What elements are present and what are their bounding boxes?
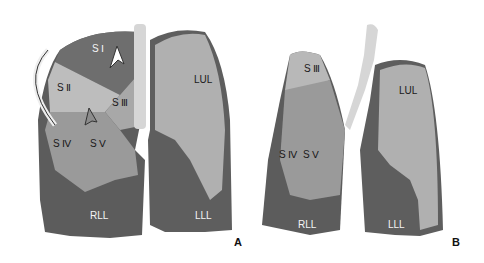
lung-rendering [0, 0, 484, 263]
label-lll-b: LLL [388, 220, 405, 230]
label-s3-a: S Ⅲ [112, 98, 128, 108]
lung-figure: S Ⅰ S Ⅱ S Ⅲ S Ⅳ S Ⅴ LUL RLL LLL A S Ⅲ S … [0, 0, 484, 263]
label-lul-b: LUL [399, 86, 417, 96]
label-s5-b: S Ⅴ [303, 150, 319, 160]
panel-label-b: B [452, 236, 460, 248]
label-rll-b: RLL [298, 220, 316, 230]
label-rll-a: RLL [90, 211, 108, 221]
label-s1-a: S Ⅰ [92, 44, 104, 54]
panel-label-a: A [234, 236, 242, 248]
label-s4-b: S Ⅳ [279, 150, 297, 160]
label-s3-b: S Ⅲ [304, 64, 320, 74]
label-s2-a: S Ⅱ [57, 83, 71, 93]
label-lll-a: LLL [195, 211, 212, 221]
label-s4-a: S Ⅳ [53, 139, 71, 149]
label-lul-a: LUL [194, 75, 212, 85]
label-s5-a: S Ⅴ [90, 139, 106, 149]
